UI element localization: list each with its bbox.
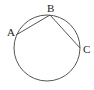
circle-diagram: A B C bbox=[0, 0, 94, 90]
point-label-b: B bbox=[47, 2, 54, 14]
circle bbox=[14, 15, 80, 81]
point-label-c: C bbox=[83, 43, 90, 55]
point-label-a: A bbox=[7, 26, 15, 38]
